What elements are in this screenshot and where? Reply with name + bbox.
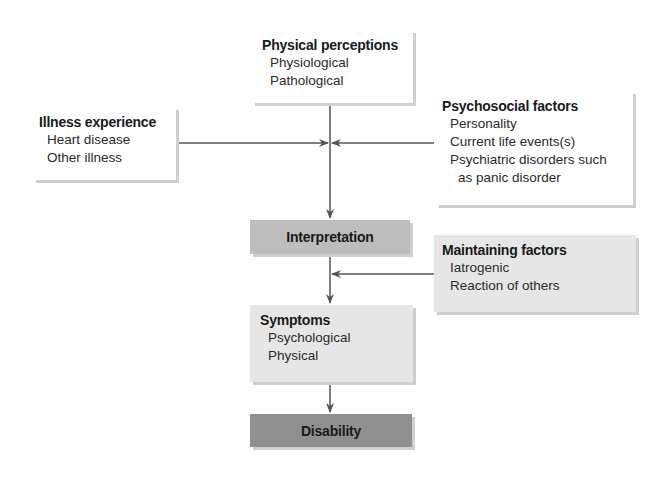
- physical-perceptions-item: Pathological: [262, 72, 403, 90]
- psychosocial-factors-item: Psychiatric disorders such: [442, 151, 623, 169]
- disability-box: Disability: [250, 414, 412, 447]
- physical-perceptions-item: Physiological: [262, 54, 403, 72]
- psychosocial-factors-item: Personality: [442, 115, 623, 133]
- illness-experience-item: Other illness: [39, 149, 166, 167]
- symptoms-item: Physical: [260, 347, 403, 365]
- interpretation-title: Interpretation: [286, 228, 373, 246]
- illness-experience-title: Illness experience: [39, 113, 166, 131]
- physical-perceptions-box: Physical perceptions Physiological Patho…: [252, 30, 413, 103]
- physical-perceptions-title: Physical perceptions: [262, 36, 403, 54]
- interpretation-box: Interpretation: [250, 220, 410, 254]
- psychosocial-factors-item: as panic disorder: [442, 169, 623, 187]
- maintaining-factors-title: Maintaining factors: [442, 241, 626, 259]
- illness-experience-item: Heart disease: [39, 131, 166, 149]
- disability-title: Disability: [301, 422, 361, 440]
- maintaining-factors-item: Reaction of others: [442, 277, 626, 295]
- symptoms-title: Symptoms: [260, 311, 403, 329]
- maintaining-factors-item: Iatrogenic: [442, 259, 626, 277]
- psychosocial-factors-box: Psychosocial factors Personality Current…: [436, 91, 633, 205]
- psychosocial-factors-title: Psychosocial factors: [442, 97, 623, 115]
- symptoms-box: Symptoms Psychological Physical: [250, 305, 413, 382]
- maintaining-factors-box: Maintaining factors Iatrogenic Reaction …: [434, 235, 636, 312]
- psychosocial-factors-item: Current life events(s): [442, 133, 623, 151]
- symptoms-item: Psychological: [260, 329, 403, 347]
- illness-experience-box: Illness experience Heart disease Other i…: [33, 107, 176, 180]
